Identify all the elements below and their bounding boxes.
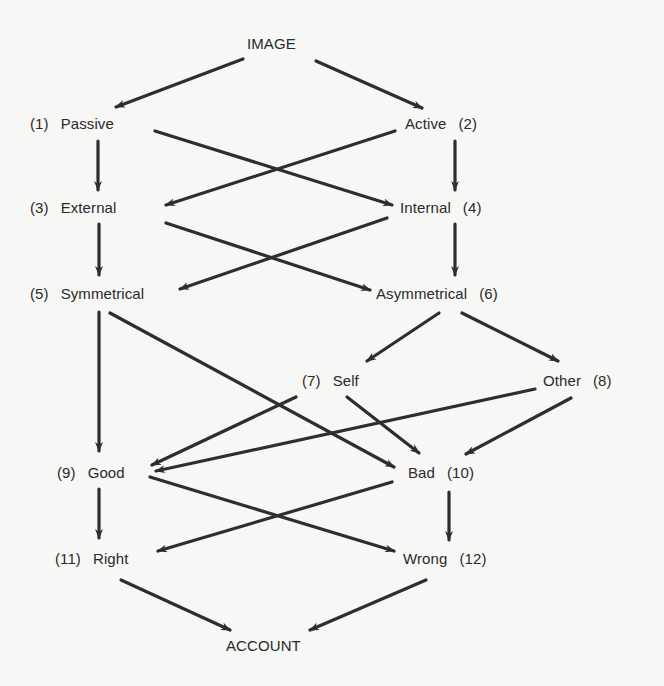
edge-wrong-account bbox=[310, 580, 426, 630]
edge-asymmetrical-other bbox=[462, 313, 558, 361]
node-image: IMAGE bbox=[247, 35, 296, 52]
edge-symmetrical-bad bbox=[110, 313, 394, 467]
node-self: (7)Self bbox=[302, 372, 359, 389]
node-internal-number: (4) bbox=[463, 199, 482, 216]
node-bad-number: (10) bbox=[447, 464, 474, 481]
node-external-number: (3) bbox=[30, 199, 49, 216]
node-passive: (1)Passive bbox=[30, 115, 114, 132]
diagram-arrows bbox=[0, 0, 664, 686]
edge-internal-symmetrical bbox=[180, 218, 387, 289]
node-symmetrical-number: (5) bbox=[30, 285, 49, 302]
node-good-label: Good bbox=[88, 464, 125, 481]
node-right-label: Right bbox=[93, 550, 129, 567]
node-passive-label: Passive bbox=[61, 115, 114, 132]
node-external: (3)External bbox=[30, 199, 116, 216]
node-active-number: (2) bbox=[458, 115, 477, 132]
edge-good-wrong bbox=[150, 477, 394, 551]
node-other-label: Other bbox=[543, 372, 581, 389]
node-passive-number: (1) bbox=[30, 115, 49, 132]
node-bad: Bad(10) bbox=[408, 464, 474, 481]
node-asymmetrical-number: (6) bbox=[479, 285, 498, 302]
node-other: Other(8) bbox=[543, 372, 612, 389]
edge-other-good bbox=[156, 389, 535, 471]
node-good: (9)Good bbox=[57, 464, 125, 481]
node-active-label: Active bbox=[405, 115, 446, 132]
edge-self-bad bbox=[347, 397, 419, 453]
node-asymmetrical: Asymmetrical(6) bbox=[376, 285, 498, 302]
node-wrong-label: Wrong bbox=[403, 550, 447, 567]
node-account-label: ACCOUNT bbox=[226, 637, 301, 654]
edge-image-active bbox=[316, 61, 422, 108]
image-account-flow-diagram: IMAGE (1)Passive Active(2) (3)External I… bbox=[0, 0, 664, 686]
edge-image-passive bbox=[116, 59, 243, 107]
node-bad-label: Bad bbox=[408, 464, 435, 481]
node-right-number: (11) bbox=[55, 550, 81, 567]
edge-right-account bbox=[121, 580, 230, 630]
node-self-number: (7) bbox=[302, 372, 321, 389]
node-internal-label: Internal bbox=[400, 199, 451, 216]
edge-asymmetrical-self bbox=[367, 313, 439, 361]
node-image-label: IMAGE bbox=[247, 35, 296, 52]
node-symmetrical: (5)Symmetrical bbox=[30, 285, 144, 302]
node-other-number: (8) bbox=[593, 372, 612, 389]
node-internal: Internal(4) bbox=[400, 199, 481, 216]
node-good-number: (9) bbox=[57, 464, 76, 481]
node-wrong-number: (12) bbox=[459, 550, 486, 567]
node-active: Active(2) bbox=[405, 115, 477, 132]
edge-other-bad bbox=[466, 398, 571, 454]
node-wrong: Wrong(12) bbox=[403, 550, 487, 567]
node-asymmetrical-label: Asymmetrical bbox=[376, 285, 467, 302]
node-external-label: External bbox=[61, 199, 117, 216]
node-symmetrical-label: Symmetrical bbox=[61, 285, 145, 302]
node-account: ACCOUNT bbox=[226, 637, 301, 654]
node-right: (11)Right bbox=[55, 550, 129, 567]
node-self-label: Self bbox=[333, 372, 359, 389]
